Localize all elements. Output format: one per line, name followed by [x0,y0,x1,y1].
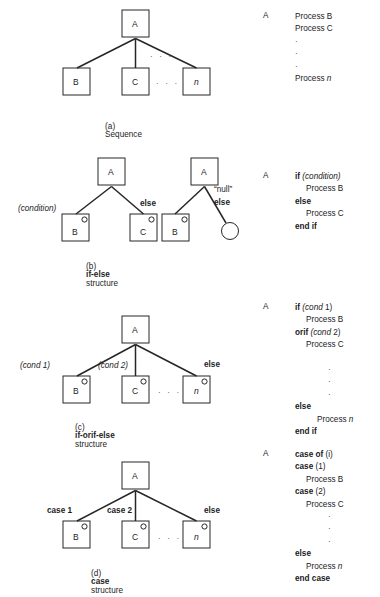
pseudocode-statement: Process [317,415,349,424]
node-label-a-child-c: C [132,78,138,87]
pseudocode-vertical-dot: · [328,377,331,386]
caption-d: (d) case structure [82,562,123,597]
connector-dot-d-c [141,524,146,529]
connector-dot-d-n [202,524,207,529]
pseudocode-line: · [295,536,344,548]
pseudocode-key-b: A [263,172,268,180]
pseudocode-line: Process C [295,23,333,35]
caption-b: (b) if-else structure [77,255,118,296]
pseudocode-block-b: if (condition)Process BelseProcess Cend … [295,171,344,233]
pseudocode-vertical-dot: · [295,49,298,58]
pseudocode-condition: n [327,74,332,83]
pseudocode-statement: Process B [306,475,343,484]
pseudocode-vertical-dot: · [328,512,331,521]
node-label-c-root: A [132,326,138,335]
pseudocode-statement: Process C [306,500,344,509]
connector-dot-b1-b [82,217,87,222]
pseudocode-line: Process n [295,73,333,85]
pseudocode-statement: (i) [326,450,333,459]
pseudocode-line: Process C [295,208,344,220]
pseudocode-statement: 2) [331,328,341,337]
pseudocode-condition: (cond [310,328,330,337]
pseudocode-line: · [295,511,344,523]
label-b2-null: “null” [214,186,232,194]
pseudocode-statement: Process C [306,340,344,349]
pseudocode-vertical-dot: · [328,390,331,399]
pseudocode-line: Process B [295,314,353,326]
pseudocode-line: if (condition) [295,171,344,183]
pseudocode-line: · [295,48,333,60]
pseudocode-key-d: A [263,450,268,458]
edge-label-d-case2: case 2 [107,507,132,515]
pseudocode-line: · [295,376,353,388]
pseudocode-line: case of (i) [295,449,344,461]
pseudocode-statement: Process [306,562,338,571]
pseudocode-statement: (1) [316,462,326,471]
pseudocode-line: · [295,36,333,48]
node-label-c-child-n: n [194,387,199,396]
pseudocode-line: · [295,61,333,73]
pseudocode-line: end case [295,573,344,585]
connector-dot-d-b [82,524,87,529]
connector-dot-c-b [82,379,87,384]
pseudocode-line: · [295,389,353,401]
edge-b1-root-to-c [112,187,144,215]
node-label-b2-root: A [201,168,207,177]
connector-dot-b2-b [182,217,187,222]
node-label-b2-child-b: B [172,228,178,237]
pseudocode-line: Process B [295,11,333,23]
pseudocode-keyword: end case [295,574,330,583]
pseudocode-condition: (cond [302,303,322,312]
pseudocode-line: else [295,401,353,413]
pseudocode-line [295,352,353,364]
pseudocode-block-c: if (cond 1)Process Borif (cond 2)Process… [295,302,353,438]
ellipsis-d-lower: · · · [158,534,181,543]
pseudocode-statement: Process B [295,12,332,21]
pseudocode-keyword: case of [295,450,326,459]
node-label-d-child-c: C [132,533,138,542]
pseudocode-line: orif (cond 2) [295,327,353,339]
caption-b-text: structure [86,279,118,288]
caption-a-text: Sequence [105,130,142,139]
edge-label-d-else: else [204,507,220,515]
pseudocode-keyword: case [295,487,316,496]
pseudocode-line: Process C [295,499,344,511]
pseudocode-line: else [295,548,344,560]
pseudocode-line: Process n [295,414,353,426]
pseudocode-key-a: A [263,12,268,20]
edge-d-root-to-n [136,491,197,522]
caption-c-text: structure [75,440,107,449]
pseudocode-keyword: orif [295,328,310,337]
pseudocode-block-d: case of (i)case (1)Process Bcase (2)Proc… [295,449,344,585]
pseudocode-line: Process B [295,183,344,195]
pseudocode-key-c: A [263,303,268,311]
node-label-a-child-b: B [73,78,79,87]
pseudocode-vertical-dot: · [328,524,331,533]
ellipsis-a-lower: · · · [156,79,179,88]
node-label-c-child-b: B [73,387,79,396]
pseudocode-keyword: end if [295,427,317,436]
connector-dot-c-c [141,379,146,384]
pseudocode-keyword: end if [295,222,317,231]
pseudocode-line: · [295,364,353,376]
pseudocode-line: Process B [295,474,344,486]
edge-label-c-cond1: (cond 1) [20,362,50,370]
pseudocode-statement: Process B [306,315,343,324]
node-label-b1-root: A [108,168,114,177]
node-label-b1-child-c: C [140,228,146,237]
null-node-circle-b2 [222,223,239,240]
pseudocode-line: · [295,523,344,535]
edge-label-c-else: else [204,361,220,369]
pseudocode-vertical-dot: · [328,365,331,374]
pseudocode-statement: Process C [295,24,333,33]
pseudocode-line: end if [295,221,344,233]
pseudocode-keyword: else [295,197,311,206]
caption-c: (c) if-orif-else structure [66,416,115,457]
connector-dot-b1-c [149,217,154,222]
edge-label-d-case1: case 1 [47,507,72,515]
pseudocode-line: case (1) [295,461,344,473]
pseudocode-vertical-dot: · [295,62,298,71]
edge-label-c-cond2: (cond 2) [98,362,128,370]
pseudocode-line: if (cond 1) [295,302,353,314]
node-label-c-child-c: C [132,387,138,396]
